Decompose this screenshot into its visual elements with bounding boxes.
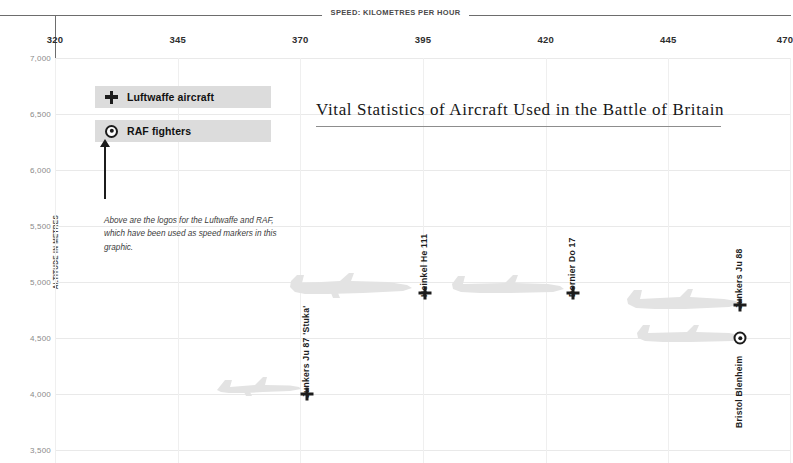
balkenkreuz-cross-icon [105, 91, 118, 104]
legend-item-label: RAF fighters [127, 125, 191, 137]
x-tick-420: 420 [537, 34, 553, 45]
vgrid-370 [300, 58, 301, 463]
label-heinkel-he-111: Heinkel He 111 [419, 234, 429, 297]
silhouette-heinkel-he-111 [288, 270, 416, 300]
y-tick-6000: 6,000 [5, 166, 51, 175]
y-tick-6500: 6,500 [5, 110, 51, 119]
x-tick-370: 370 [292, 34, 308, 45]
y-axis-ticks: 7,000 6,500 6,000 5,500 5,000 4,500 4,00… [0, 58, 51, 463]
silhouette-junkers-ju-87 [215, 370, 303, 400]
legend-item-label: Luftwaffe aircraft [127, 91, 214, 103]
legend-item-raf[interactable]: RAF fighters [95, 120, 271, 142]
y-tick-4500: 4,500 [5, 334, 51, 343]
page-title: Vital Statistics of Aircraft Used in the… [316, 100, 724, 120]
y-tick-5500: 5,500 [5, 222, 51, 231]
vgrid-320 [55, 58, 56, 463]
x-tick-445: 445 [660, 34, 676, 45]
silhouette-dornier-do-17 [450, 272, 566, 298]
x-tick-470: 470 [777, 34, 793, 45]
x-tick-320: 320 [47, 34, 63, 45]
label-junkers-ju-87: Junkers Ju 87 'Stuka' [301, 306, 311, 398]
vgrid-470 [790, 58, 791, 463]
silhouette-junkers-ju-88 [625, 286, 741, 316]
legend-item-luftwaffe[interactable]: Luftwaffe aircraft [95, 86, 271, 108]
y-tick-5000: 5,000 [5, 278, 51, 287]
y-tick-3500: 3,500 [5, 446, 51, 455]
legend: Luftwaffe aircraft RAF fighters [95, 86, 271, 154]
x-tick-345: 345 [169, 34, 185, 45]
annotation-text: Above are the logos for the Luftwaffe an… [104, 214, 279, 254]
y-tick-7000: 7,000 [5, 54, 51, 63]
title-underline [316, 126, 721, 127]
label-bristol-blenheim: Bristol Blenheim [734, 356, 744, 428]
silhouette-bristol-blenheim [635, 322, 745, 348]
annotation-arrow-icon [104, 146, 106, 199]
x-axis-ticks: 320 345 370 395 420 445 470 [55, 0, 791, 58]
x-tick-395: 395 [415, 34, 431, 45]
raf-roundel-icon [734, 332, 747, 345]
label-junkers-ju-88: Junkers Ju 88 [734, 248, 744, 309]
label-dornier-do-17: Dornier Do 17 [567, 237, 577, 297]
raf-roundel-icon [105, 125, 118, 138]
marker-bristol-blenheim[interactable] [734, 332, 747, 345]
y-tick-4000: 4,000 [5, 390, 51, 399]
